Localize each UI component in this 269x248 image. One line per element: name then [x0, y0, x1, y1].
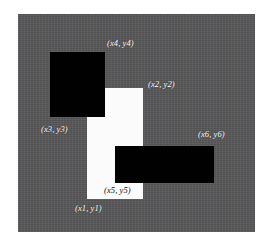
label-x6-y6: (x6, y6) [198, 129, 225, 139]
black-rectangle-upper-left [50, 52, 105, 117]
label-x3-y3: (x3, y3) [41, 124, 68, 134]
label-x5-y5: (x5, y5) [104, 185, 131, 195]
label-x1-y1: (x1, y1) [75, 203, 102, 213]
label-x2-y2: (x2, y2) [148, 79, 175, 89]
label-x4-y4: (x4, y4) [107, 38, 134, 48]
black-rectangle-lower-right [115, 146, 214, 183]
figure-canvas: (x4, y4) (x2, y2) (x3, y3) (x6, y6) (x5,… [0, 0, 269, 248]
